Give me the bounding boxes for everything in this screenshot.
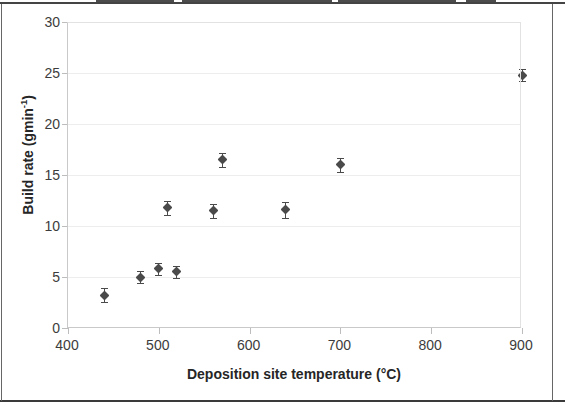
y-axis-tick-label: 30 bbox=[44, 15, 60, 29]
y-axis-tick bbox=[62, 277, 68, 278]
gridline-horizontal bbox=[68, 175, 521, 176]
y-axis-tick-label: 15 bbox=[44, 168, 60, 182]
y-axis-title: Build rate (gmin-1) bbox=[18, 40, 36, 270]
x-axis-tick-label: 700 bbox=[309, 338, 369, 352]
error-bar-cap-upper bbox=[282, 202, 289, 203]
error-bar-cap-lower bbox=[173, 278, 180, 279]
error-bar-cap-lower bbox=[282, 218, 289, 219]
error-bar-cap-upper bbox=[337, 158, 344, 159]
error-bar-cap-lower bbox=[137, 283, 144, 284]
x-axis-tick bbox=[340, 328, 341, 334]
x-axis-tick-label: 400 bbox=[37, 338, 97, 352]
caption-remnant-segment bbox=[466, 0, 496, 2]
chart-figure: 051015202530 400500600700800900 Build ra… bbox=[0, 4, 553, 400]
marker-diamond bbox=[136, 272, 146, 282]
marker-diamond bbox=[208, 206, 218, 216]
cropped-caption-remnant bbox=[96, 0, 496, 3]
page-border-bottom bbox=[0, 400, 565, 402]
x-axis-tick-label: 500 bbox=[128, 338, 188, 352]
scanned-page-frame: 051015202530 400500600700800900 Build ra… bbox=[0, 0, 565, 415]
marker-diamond bbox=[163, 203, 173, 213]
error-bar-cap-lower bbox=[164, 215, 171, 216]
gridline-horizontal bbox=[68, 73, 521, 74]
x-axis-tick-label: 600 bbox=[219, 338, 279, 352]
marker-diamond bbox=[335, 160, 345, 170]
error-bar-cap-lower bbox=[155, 275, 162, 276]
marker-diamond bbox=[517, 70, 527, 80]
y-axis-tick-label: 20 bbox=[44, 117, 60, 131]
caption-remnant-segment bbox=[182, 0, 332, 2]
x-axis-tick bbox=[250, 328, 251, 334]
y-axis-tick-label: 5 bbox=[52, 270, 60, 284]
y-axis-tick-label: 10 bbox=[44, 219, 60, 233]
error-bar-cap-lower bbox=[519, 81, 526, 82]
y-axis-title-exponent: -1 bbox=[18, 100, 29, 108]
y-axis-tick bbox=[62, 175, 68, 176]
error-bar-cap-upper bbox=[164, 201, 171, 202]
marker-diamond bbox=[154, 264, 164, 274]
y-axis-tick-label: 25 bbox=[44, 66, 60, 80]
error-bar-cap-lower bbox=[337, 172, 344, 173]
gridline-horizontal bbox=[68, 226, 521, 227]
error-bar-cap-lower bbox=[101, 302, 108, 303]
marker-diamond bbox=[281, 205, 291, 215]
x-axis-tick bbox=[522, 328, 523, 334]
y-axis-tick bbox=[62, 73, 68, 74]
y-axis-tick bbox=[62, 22, 68, 23]
y-axis-tick-label: 0 bbox=[52, 321, 60, 335]
x-axis-tick bbox=[159, 328, 160, 334]
x-axis-title: Deposition site temperature (°C) bbox=[67, 366, 521, 382]
error-bar-cap-upper bbox=[219, 153, 226, 154]
marker-diamond bbox=[172, 267, 182, 277]
error-bar-cap-upper bbox=[210, 204, 217, 205]
gridline-horizontal bbox=[68, 124, 521, 125]
error-bar-cap-lower bbox=[219, 167, 226, 168]
error-bar-cap-lower bbox=[210, 218, 217, 219]
error-bar-cap-upper bbox=[101, 288, 108, 289]
x-axis-tick-label: 900 bbox=[491, 338, 551, 352]
x-axis-tick-label: 800 bbox=[400, 338, 460, 352]
caption-remnant-segment bbox=[338, 0, 456, 2]
y-axis-tick bbox=[62, 124, 68, 125]
caption-remnant-segment bbox=[96, 0, 174, 2]
marker-diamond bbox=[217, 155, 227, 165]
plot-area bbox=[67, 22, 521, 328]
marker-diamond bbox=[99, 290, 109, 300]
x-axis-tick bbox=[431, 328, 432, 334]
y-axis-tick bbox=[62, 226, 68, 227]
x-axis-tick bbox=[68, 328, 69, 334]
